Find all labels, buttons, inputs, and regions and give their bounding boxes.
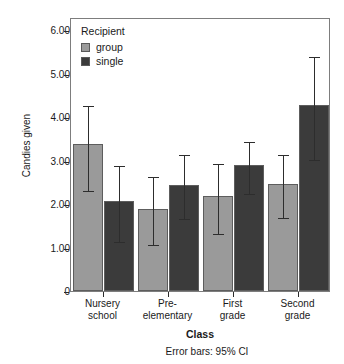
error-cap-group-1-lower [83, 191, 94, 192]
error-bar-group-4 [283, 155, 284, 218]
error-cap-single-3-lower [244, 194, 255, 195]
error-cap-single-3-upper [244, 142, 255, 143]
legend-entry-single: single [81, 55, 125, 67]
y-tick-mark [64, 205, 69, 206]
bar-chart: Candies given 01.002.003.004.005.006.00 … [0, 0, 344, 364]
y-axis-ticks: 01.002.003.004.005.006.00 [18, 0, 70, 364]
error-cap-group-4-upper [278, 155, 289, 156]
legend-label-single: single [96, 55, 123, 67]
y-tick-mark [64, 75, 69, 76]
error-bar-group-1 [88, 106, 89, 191]
error-cap-single-1-lower [114, 242, 125, 243]
error-bar-group-3 [218, 164, 219, 234]
x-tick-label-line: First [200, 298, 265, 310]
x-tick-label-line: grade [200, 310, 265, 322]
error-bar-note: Error bars: 95% CI [70, 346, 344, 357]
legend-entry-group: group [81, 41, 125, 53]
plot-frame: Recipient group single [70, 18, 330, 292]
error-cap-single-2-upper [179, 155, 190, 156]
x-tick-mark [233, 292, 234, 297]
error-cap-single-4-upper [309, 57, 320, 58]
legend-swatch-group [81, 43, 90, 52]
x-tick-label-4: Secondgrade [265, 298, 330, 322]
error-cap-group-2-lower [148, 245, 159, 246]
error-cap-group-2-upper [148, 177, 159, 178]
y-tick-mark [64, 118, 69, 119]
x-tick-label-line: Second [265, 298, 330, 310]
error-bar-single-2 [184, 155, 185, 219]
legend-title: Recipient [81, 25, 125, 37]
y-tick-mark [64, 292, 69, 293]
x-tick-mark [103, 292, 104, 297]
x-tick-mark [168, 292, 169, 297]
x-tick-label-2: Pre-elementary [135, 298, 200, 322]
x-axis-title: Class [70, 328, 330, 340]
error-cap-single-1-upper [114, 166, 125, 167]
x-tick-label-line: grade [265, 310, 330, 322]
error-cap-single-4-lower [309, 160, 320, 161]
legend-swatch-single [81, 57, 90, 66]
error-cap-group-3-lower [213, 234, 224, 235]
error-cap-group-4-lower [278, 218, 289, 219]
error-bar-single-4 [314, 57, 315, 160]
legend: Recipient group single [81, 25, 125, 69]
x-axis-labels: NurseryschoolPre-elementaryFirstgradeSec… [70, 298, 330, 328]
x-tick-mark [298, 292, 299, 297]
error-cap-single-2-lower [179, 219, 190, 220]
x-tick-label-1: Nurseryschool [70, 298, 135, 322]
x-tick-label-line: school [70, 310, 135, 322]
error-bar-single-1 [119, 166, 120, 243]
y-tick-mark [64, 162, 69, 163]
x-tick-label-line: Nursery [70, 298, 135, 310]
x-tick-label-line: elementary [135, 310, 200, 322]
y-tick-mark [64, 31, 69, 32]
y-tick-mark [64, 249, 69, 250]
x-tick-label-line: Pre- [135, 298, 200, 310]
error-bar-single-3 [249, 142, 250, 195]
error-bar-group-2 [153, 177, 154, 244]
x-tick-label-3: Firstgrade [200, 298, 265, 322]
error-cap-group-3-upper [213, 164, 224, 165]
error-cap-group-1-upper [83, 106, 94, 107]
legend-label-group: group [96, 41, 123, 53]
